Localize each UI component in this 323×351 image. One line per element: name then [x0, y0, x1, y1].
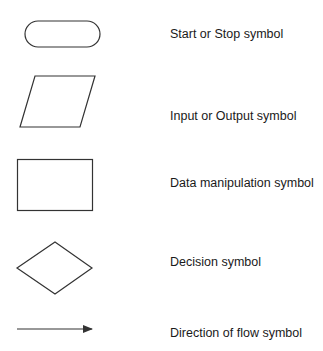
rectangle-shape-icon — [18, 160, 93, 211]
terminator-shape-icon — [25, 21, 100, 47]
label-direction-of-flow-symbol: Direction of flow symbol — [170, 327, 302, 340]
label-decision-symbol: Decision symbol — [170, 256, 261, 269]
label-input-output-symbol: Input or Output symbol — [170, 110, 296, 123]
label-start-stop-symbol: Start or Stop symbol — [170, 28, 283, 41]
label-data-manipulation-symbol: Data manipulation symbol — [170, 177, 314, 190]
parallelogram-shape-icon — [20, 76, 95, 127]
diamond-shape-icon — [17, 242, 92, 294]
